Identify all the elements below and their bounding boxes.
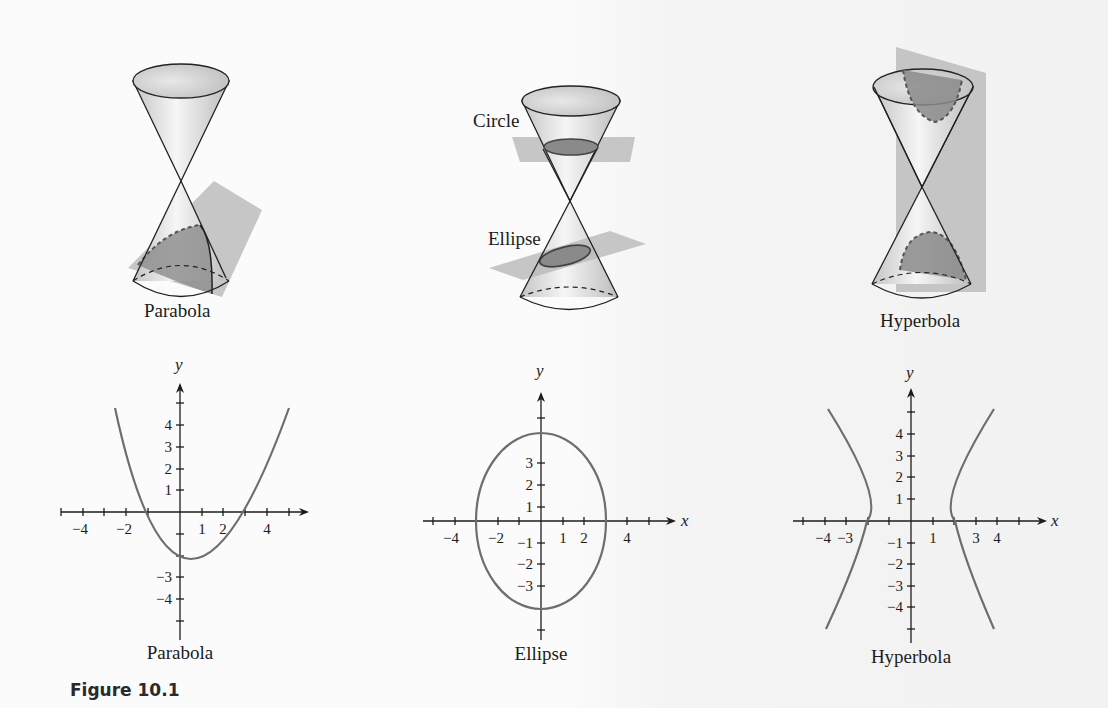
svg-text:4: 4 bbox=[896, 426, 904, 442]
svg-text:1: 1 bbox=[896, 491, 904, 507]
parabola-cone: Parabola bbox=[128, 64, 262, 321]
svg-text:1: 1 bbox=[165, 482, 173, 498]
svg-text:−1: −1 bbox=[887, 535, 903, 551]
y-axis-label: y bbox=[904, 363, 914, 382]
x-tick-labels: −4 −2 1 2 4 bbox=[72, 521, 271, 537]
x-axis-label: x bbox=[680, 511, 689, 530]
hyperbola-graph-label: Hyperbola bbox=[871, 646, 952, 667]
svg-text:−2: −2 bbox=[517, 556, 533, 572]
svg-text:−2: −2 bbox=[116, 521, 132, 537]
svg-text:2: 2 bbox=[580, 530, 588, 546]
parabola-cone-label: Parabola bbox=[144, 300, 211, 321]
hyperbola-graph: y x −4 −3 1 3 4 4 3 2 1 −1 −2 −3 −4 Hype… bbox=[780, 340, 1108, 680]
svg-text:−1: −1 bbox=[517, 535, 533, 551]
y-axis-label: y bbox=[173, 355, 183, 374]
ellipse-axes bbox=[423, 394, 674, 640]
hyperbola-axes bbox=[793, 390, 1045, 643]
svg-text:−3: −3 bbox=[517, 578, 533, 594]
svg-text:3: 3 bbox=[165, 439, 173, 455]
svg-text:1: 1 bbox=[526, 499, 534, 515]
svg-text:2: 2 bbox=[165, 461, 173, 477]
svg-text:−4: −4 bbox=[156, 591, 172, 607]
svg-text:−2: −2 bbox=[488, 530, 504, 546]
svg-text:3: 3 bbox=[972, 530, 980, 546]
svg-text:1: 1 bbox=[929, 530, 937, 546]
svg-text:−2: −2 bbox=[887, 556, 903, 572]
svg-text:−3: −3 bbox=[156, 569, 172, 585]
svg-text:2: 2 bbox=[219, 521, 227, 537]
svg-text:1: 1 bbox=[559, 530, 567, 546]
y-axis-label: y bbox=[534, 361, 544, 380]
parabola-axes bbox=[61, 385, 307, 640]
svg-text:4: 4 bbox=[263, 521, 271, 537]
svg-text:4: 4 bbox=[623, 530, 631, 546]
parabola-graph: y x −4 −2 1 2 4 4 3 2 1 −3 −4 Parabola bbox=[50, 340, 310, 680]
circle-label: Circle bbox=[473, 110, 519, 131]
svg-text:3: 3 bbox=[526, 455, 534, 471]
hyperbola-right-branch bbox=[951, 409, 994, 629]
svg-text:−3: −3 bbox=[887, 578, 903, 594]
svg-text:−4: −4 bbox=[443, 530, 459, 546]
svg-text:4: 4 bbox=[993, 530, 1001, 546]
svg-text:−4: −4 bbox=[887, 599, 903, 615]
svg-text:4: 4 bbox=[165, 417, 173, 433]
hyperbola-left-branch bbox=[826, 409, 871, 629]
ellipse-graph-label: Ellipse bbox=[515, 643, 568, 664]
svg-text:3: 3 bbox=[896, 448, 904, 464]
cone-diagrams: Parabola Circle Ellipse Hyperbola bbox=[0, 0, 1108, 340]
circle-ellipse-cone: Circle Ellipse bbox=[473, 86, 646, 310]
hyperbola-cone: Hyperbola bbox=[872, 47, 986, 331]
svg-text:−3: −3 bbox=[837, 530, 853, 546]
ellipse-label: Ellipse bbox=[488, 228, 541, 249]
figure-caption: Figure 10.1 bbox=[70, 680, 180, 700]
svg-text:−4: −4 bbox=[72, 521, 88, 537]
ellipse-graph: y x −4 −2 1 2 4 3 2 1 −1 −2 −3 Ellipse bbox=[410, 340, 710, 680]
parabola-graph-label: Parabola bbox=[147, 642, 214, 663]
svg-text:2: 2 bbox=[896, 469, 904, 485]
hyperbola-cone-label: Hyperbola bbox=[880, 310, 961, 331]
svg-text:2: 2 bbox=[526, 477, 534, 493]
x-axis-label: x bbox=[1050, 511, 1059, 530]
svg-text:1: 1 bbox=[198, 521, 206, 537]
svg-text:−4: −4 bbox=[815, 530, 831, 546]
